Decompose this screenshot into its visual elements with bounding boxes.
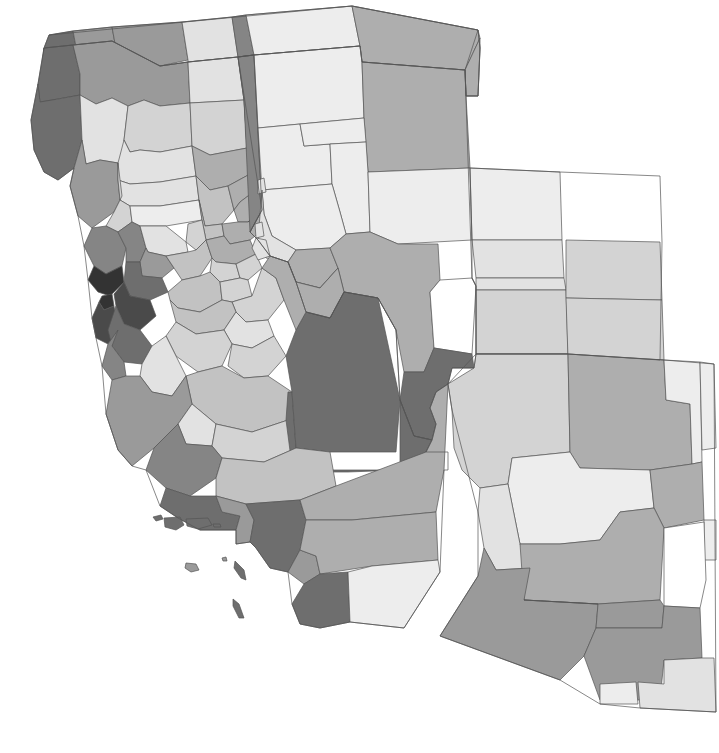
region-ut-garfield[interactable] [476,278,566,290]
region-ca-ch-anacapa[interactable] [213,524,221,527]
region-ca-shasta[interactable] [124,100,192,152]
choropleth-map-figure [0,0,719,753]
region-ca-ch-catalina[interactable] [234,561,246,580]
region-ut-iron[interactable] [472,240,564,278]
region-ca-ch-sannicolas[interactable] [185,563,199,572]
region-az-apache[interactable] [700,362,716,450]
region-ca-ch-santarosa[interactable] [164,517,184,530]
region-or-klamath[interactable] [182,17,238,62]
region-nv-humboldt[interactable] [254,46,364,128]
region-group-utah [470,168,664,360]
region-nv-whitepine[interactable] [368,168,472,244]
region-ca-delnorte-main[interactable] [38,45,80,102]
region-ut-whitepine-cont[interactable] [470,168,562,240]
region-group-arizona [440,354,716,712]
region-nv-elko[interactable] [362,62,470,172]
region-ca-ch-sanmiguel[interactable] [153,515,163,521]
region-group-channel-islands [153,515,246,618]
region-az-santacruz[interactable] [600,682,638,704]
region-az-graham[interactable] [664,522,706,608]
region-az-greenlee[interactable] [704,520,716,560]
region-ca-lassen[interactable] [190,100,247,155]
region-ca-ch-santabarbara[interactable] [222,557,227,561]
region-ut-washington[interactable] [476,290,568,354]
region-group-northern-california [31,41,268,250]
region-nv-carsoncity[interactable] [255,222,264,238]
region-ca-ch-sanclemente[interactable] [233,599,244,618]
region-ut-sanjuan[interactable] [566,298,664,360]
choropleth-svg-canvas [0,0,719,753]
region-ut-kane[interactable] [566,240,662,300]
region-ca-modoc[interactable] [188,57,244,103]
region-or-malheur[interactable] [352,6,480,70]
region-nv-lincoln[interactable] [430,278,476,354]
